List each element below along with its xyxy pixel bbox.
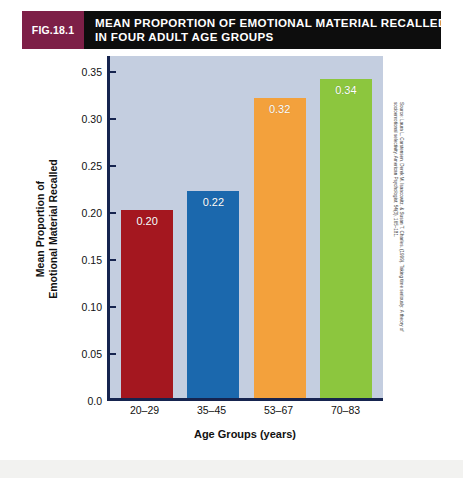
x-axis-tick-labels: 20–2935–4553–6770–83 xyxy=(107,404,383,422)
bar-column: 0.32 xyxy=(254,56,306,398)
y-axis-title-text: Mean Proportion of Emotional Material Re… xyxy=(34,159,60,298)
y-axis-title-line-2: Emotional Material Recalled xyxy=(47,159,60,298)
y-axis-tick-label: 0.25 xyxy=(82,160,102,172)
bar-value-label: 0.34 xyxy=(335,84,356,96)
figure-title-line-1: MEAN PROPORTION OF EMOTIONAL MATERIAL RE… xyxy=(95,16,441,31)
y-axis-tick-label: 0.30 xyxy=(82,113,102,125)
y-axis-tick-labels: 0.00.050.100.150.200.250.300.35 xyxy=(64,56,102,401)
y-axis-tick-mark xyxy=(110,118,116,120)
bar-value-label: 0.32 xyxy=(269,103,290,115)
x-axis-tick-label: 70–83 xyxy=(320,404,372,422)
x-axis-tick-label: 53–67 xyxy=(253,404,305,422)
source-citation: Source: Laura L. Carstensen, Derek M. Is… xyxy=(388,102,408,402)
source-citation-text: Source: Laura L. Carstensen, Derek M. Is… xyxy=(392,102,405,402)
bar-value-label: 0.22 xyxy=(203,196,224,208)
bar: 0.20 xyxy=(121,210,173,398)
chart-area: Mean Proportion of Emotional Material Re… xyxy=(22,56,441,452)
y-axis-tick-label: 0.15 xyxy=(82,254,102,266)
x-axis-tick-label: 20–29 xyxy=(119,404,171,422)
y-axis-tick-label: 0.05 xyxy=(82,348,102,360)
bar: 0.34 xyxy=(320,79,372,398)
y-axis-tick-label: 0.35 xyxy=(82,66,102,78)
y-axis-tick-mark xyxy=(110,212,116,214)
bar-column: 0.22 xyxy=(187,56,239,398)
figure-number-label: FIG.18.1 xyxy=(32,24,74,36)
y-axis-tick-mark xyxy=(110,353,116,355)
bar: 0.32 xyxy=(254,98,306,398)
y-axis-tick-label: 0.10 xyxy=(82,301,102,313)
bar-value-label: 0.20 xyxy=(136,215,157,227)
bars-layer: 0.200.220.320.34 xyxy=(110,56,383,398)
source-line-2: socioemotional selectivity. American Psy… xyxy=(392,102,398,402)
bar-column: 0.20 xyxy=(121,56,173,398)
y-axis-tick-label: 0.0 xyxy=(87,395,102,407)
y-axis-title: Mean Proportion of Emotional Material Re… xyxy=(30,56,64,401)
figure-panel: FIG.18.1 MEAN PROPORTION OF EMOTIONAL MA… xyxy=(0,0,463,460)
figure-title-line-2: IN FOUR ADULT AGE GROUPS xyxy=(95,30,441,45)
figure-number-badge: FIG.18.1 xyxy=(22,11,84,49)
y-axis-tick-mark xyxy=(110,71,116,73)
x-axis-tick-label: 35–45 xyxy=(186,404,238,422)
figure-header: FIG.18.1 MEAN PROPORTION OF EMOTIONAL MA… xyxy=(22,11,441,49)
y-axis-title-line-1: Mean Proportion of xyxy=(34,159,47,298)
y-axis-tick-mark xyxy=(110,259,116,261)
y-axis-tick-label: 0.20 xyxy=(82,207,102,219)
plot-region: 0.200.220.320.34 xyxy=(107,56,383,401)
y-axis-tick-mark xyxy=(110,165,116,167)
source-line-1: Source: Laura L. Carstensen, Derek M. Is… xyxy=(398,102,404,402)
x-axis-title: Age Groups (years) xyxy=(107,428,383,440)
bar: 0.22 xyxy=(187,191,239,398)
bar-column: 0.34 xyxy=(320,56,372,398)
y-axis-tick-mark xyxy=(110,306,116,308)
figure-title: MEAN PROPORTION OF EMOTIONAL MATERIAL RE… xyxy=(84,11,441,49)
